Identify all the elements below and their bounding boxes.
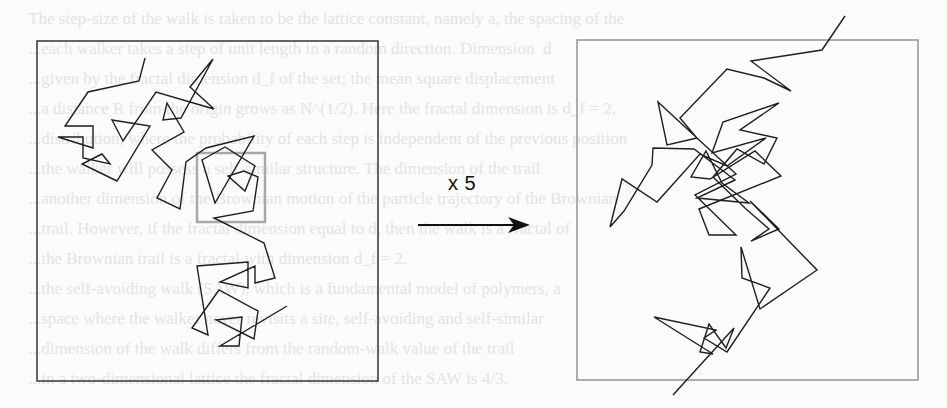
zoom-region-box — [197, 153, 265, 222]
right-random-walk-path-magnified — [610, 16, 845, 395]
random-walk-scaling-figure — [0, 0, 947, 408]
scale-factor-label: x 5 — [448, 172, 476, 195]
left-random-walk-path — [58, 58, 287, 346]
scale-arrow-icon — [418, 217, 530, 233]
